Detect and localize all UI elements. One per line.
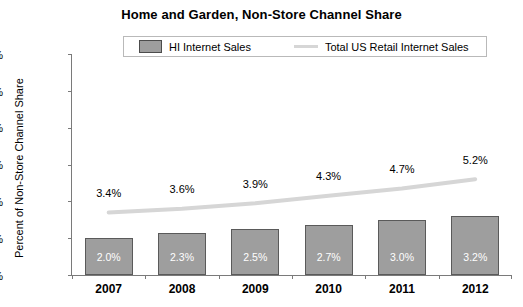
line-label-2011: 4.7% <box>378 163 426 175</box>
x-axis-label-2011: 2011 <box>378 282 426 296</box>
plot-area: 0% 2% 4% 6% 8% 10% 12% 2.0% 2.3% 2.5% 2.… <box>71 54 512 276</box>
line-label-2008: 3.6% <box>158 183 206 195</box>
legend-label-bar-series: HI Internet Sales <box>169 41 251 53</box>
line-label-2009: 3.9% <box>231 178 279 190</box>
x-tick-mark-0 <box>72 275 73 279</box>
x-axis-label-2009: 2009 <box>231 282 279 296</box>
x-tick-mark-5 <box>439 275 440 279</box>
x-axis-label-2008: 2008 <box>158 282 206 296</box>
line-label-2012: 5.2% <box>451 154 499 166</box>
legend-swatch-line-icon <box>294 41 318 52</box>
legend-item-bar-series: HI Internet Sales <box>139 40 251 53</box>
y-tick-label-2: 2% <box>0 233 3 245</box>
y-tick-label-0: 0% <box>0 270 3 282</box>
y-axis-title: Percent of Non-Store Channel Share <box>13 78 25 258</box>
x-tick-mark-1 <box>145 275 146 279</box>
y-tick-label-10: 10% <box>0 86 3 98</box>
x-tick-mark-3 <box>292 275 293 279</box>
legend-swatch-bar-icon <box>139 40 162 53</box>
x-tick-mark-4 <box>365 275 366 279</box>
x-tick-mark-6 <box>511 275 512 279</box>
y-tick-label-6: 6% <box>0 159 3 171</box>
y-tick-label-12: 12% <box>0 49 3 61</box>
line-label-2007: 3.4% <box>85 187 133 199</box>
chart-title: Home and Garden, Non-Store Channel Share <box>0 7 523 22</box>
line-label-2010: 4.3% <box>305 170 353 182</box>
legend-label-line-series: Total US Retail Internet Sales <box>325 41 469 53</box>
legend-item-line-series: Total US Retail Internet Sales <box>294 41 469 53</box>
x-axis-label-2007: 2007 <box>85 282 133 296</box>
x-axis-label-2012: 2012 <box>451 282 499 296</box>
x-axis-label-2010: 2010 <box>305 282 353 296</box>
line-series-layer <box>72 54 512 275</box>
chart-container: Home and Garden, Non-Store Channel Share… <box>0 0 523 307</box>
y-tick-label-4: 4% <box>0 196 3 208</box>
x-tick-mark-2 <box>219 275 220 279</box>
y-tick-label-8: 8% <box>0 122 3 134</box>
